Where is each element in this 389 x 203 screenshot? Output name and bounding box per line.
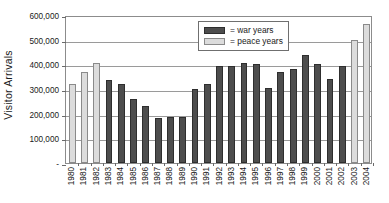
legend-label-war: = war years: [230, 25, 274, 35]
x-axis-tick-mark: [361, 163, 362, 166]
x-axis-tick-mark: [299, 163, 300, 166]
bar-1980: [69, 84, 76, 163]
y-axis-tick-mark: [62, 42, 66, 43]
x-axis-tick-mark: [91, 163, 92, 166]
y-axis-tick-mark: [62, 140, 66, 141]
y-axis-tick-label: 500,000: [29, 36, 59, 45]
y-axis-tick-label: 100,000: [29, 135, 59, 144]
bar-1986: [142, 106, 149, 163]
bar-1987: [155, 118, 162, 163]
legend-swatch-peace-icon: [204, 38, 225, 45]
x-axis-tick-mark: [164, 163, 165, 166]
y-axis-title: Visitor Arrivals: [0, 0, 16, 170]
bar-2003: [351, 40, 358, 163]
bar-1994: [241, 63, 248, 163]
bar-2001: [327, 79, 334, 163]
legend: = war years = peace years: [198, 21, 289, 51]
y-axis-tick-labels: 600,000500,000400,000300,000200,000100,0…: [16, 16, 63, 164]
bar-1999: [302, 55, 309, 163]
legend-item-peace: = peace years: [204, 36, 283, 46]
x-axis-tick-mark: [115, 163, 116, 166]
x-axis-tick-mark: [312, 163, 313, 166]
bar-1991: [204, 84, 211, 163]
x-axis-tick-mark: [213, 163, 214, 166]
x-axis-tick-mark: [103, 163, 104, 166]
x-axis-tick-mark: [287, 163, 288, 166]
x-axis-tick-label: 2004: [348, 167, 384, 203]
x-axis-tick-mark: [348, 163, 349, 166]
bar-1992: [216, 66, 223, 163]
y-axis-tick-mark: [62, 17, 66, 18]
x-axis-tick-mark: [201, 163, 202, 166]
bar-1983: [106, 80, 113, 163]
y-axis-tick-label: 600,000: [29, 12, 59, 21]
legend-item-war: = war years: [204, 25, 283, 35]
bar-1995: [253, 64, 260, 163]
x-axis-tick-mark: [127, 163, 128, 166]
y-axis-tick-label: 400,000: [29, 61, 59, 70]
bar-1996: [265, 88, 272, 163]
bar-1997: [277, 72, 284, 163]
x-axis-tick-mark: [152, 163, 153, 166]
x-axis-tick-mark: [336, 163, 337, 166]
bar-1984: [118, 84, 125, 163]
x-axis-tick-mark: [189, 163, 190, 166]
x-axis-tick-labels: 1980198119821983198419851986198719881989…: [65, 167, 372, 203]
bar-1985: [130, 99, 137, 163]
legend-label-peace: = peace years: [230, 36, 283, 46]
bar-1982: [93, 63, 100, 163]
y-axis-tick-label: 300,000: [29, 86, 59, 95]
bar-2002: [339, 66, 346, 163]
y-axis-tick-mark: [62, 66, 66, 67]
x-axis-tick-mark: [275, 163, 276, 166]
bar-1990: [192, 89, 199, 163]
x-axis-tick-mark: [238, 163, 239, 166]
y-axis-title-label: Visitor Arrivals: [2, 50, 14, 120]
y-axis-tick-mark: [62, 91, 66, 92]
y-axis-tick-mark: [62, 116, 66, 117]
bar-1981: [81, 72, 88, 164]
bar-1998: [290, 69, 297, 163]
x-axis-tick-mark: [324, 163, 325, 166]
x-axis-tick-mark: [262, 163, 263, 166]
x-axis-tick-mark: [373, 163, 374, 166]
bar-1989: [179, 117, 186, 163]
x-axis-tick-mark: [78, 163, 79, 166]
x-axis-tick-mark: [250, 163, 251, 166]
y-axis-tick-mark: [62, 165, 66, 166]
x-axis-tick-label-text: 2004: [361, 167, 370, 185]
x-axis-tick-mark: [226, 163, 227, 166]
y-axis-tick-label: 200,000: [29, 110, 59, 119]
bar-1988: [167, 117, 174, 163]
x-axis-tick-mark: [177, 163, 178, 166]
bar-2004: [363, 24, 370, 163]
bar-2000: [314, 64, 321, 163]
bar-1993: [228, 66, 235, 163]
legend-swatch-war-icon: [204, 27, 225, 34]
x-axis-tick-mark: [140, 163, 141, 166]
visitor-arrivals-bar-chart: Visitor Arrivals 600,000500,000400,00030…: [0, 0, 389, 203]
